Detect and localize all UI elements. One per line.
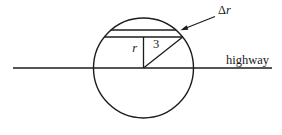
- delta-symbol: Δ: [218, 3, 226, 17]
- highway-label: highway: [226, 53, 270, 67]
- hypotenuse-segment: [144, 37, 183, 68]
- hypotenuse-label: 3: [153, 37, 159, 51]
- delta-r-arrowhead-icon: [181, 25, 189, 30]
- delta-r-label: Δr: [218, 3, 231, 17]
- delta-r-variable: r: [226, 3, 231, 17]
- r-label: r: [132, 41, 137, 55]
- highway-circle-figure: r 3 highway Δr: [0, 0, 282, 135]
- diagram-svg: r 3 highway Δr: [0, 0, 282, 135]
- delta-r-arrow-line: [184, 17, 216, 30]
